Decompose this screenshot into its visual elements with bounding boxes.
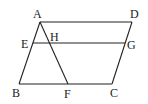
label-E: E [21,37,28,51]
geometry-figure: A D E H G B F C [0,0,148,104]
label-D: D [130,7,139,21]
label-F: F [64,87,71,101]
label-G: G [127,38,136,52]
label-A: A [33,7,42,21]
segment-DC [112,22,132,84]
segment-BA [19,22,40,84]
label-C: C [110,86,118,100]
label-H: H [50,30,59,44]
label-B: B [12,86,20,100]
